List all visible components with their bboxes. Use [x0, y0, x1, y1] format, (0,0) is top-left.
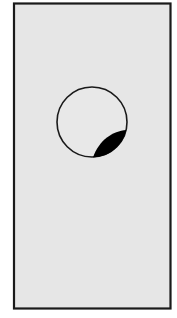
diagram-figure: [0, 0, 177, 318]
